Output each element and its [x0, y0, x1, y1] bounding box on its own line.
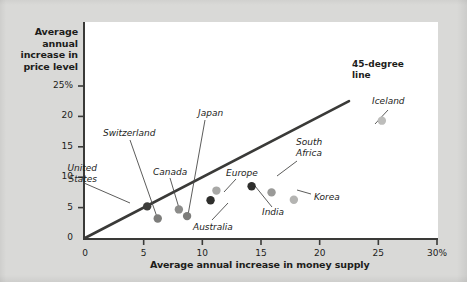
point-label-south-africa: SouthAfrica: [296, 137, 322, 158]
point-label-australia: Australia: [193, 222, 233, 233]
point-label-korea: Korea: [314, 192, 340, 203]
point-label-india: India: [262, 207, 284, 218]
chart-marks-layer: [0, 0, 467, 282]
point-label-japan: Japan: [198, 108, 223, 119]
data-point-iceland: [378, 116, 386, 124]
point-label-line-1: South: [296, 137, 322, 148]
point-label-line-1: United: [45, 163, 97, 174]
data-point-australia: [206, 196, 214, 204]
point-label-europe: Europe: [226, 168, 258, 179]
data-point-japan: [183, 212, 191, 220]
point-label-line-2: Africa: [296, 148, 322, 159]
reference-line-label: 45-degreeline: [352, 59, 404, 80]
data-point-korea: [290, 195, 298, 203]
data-point-south-africa: [267, 188, 275, 196]
data-point-switzerland: [154, 214, 162, 222]
reference-line-label-line-2: line: [352, 70, 404, 81]
point-label-switzerland: Switzerland: [103, 128, 156, 139]
point-label-line-2: States: [45, 174, 97, 185]
data-point-canada: [175, 205, 183, 213]
point-label-canada: Canada: [153, 167, 187, 178]
point-label-iceland: Iceland: [372, 96, 405, 107]
scatter-chart-figure: Average annual increase in price level A…: [0, 0, 467, 282]
data-point-india: [247, 182, 255, 190]
reference-line-label-line-1: 45-degree: [352, 59, 404, 70]
data-point-europe: [212, 186, 220, 194]
data-point-united-states: [143, 202, 151, 210]
point-label-united-states: UnitedStates: [45, 163, 97, 184]
